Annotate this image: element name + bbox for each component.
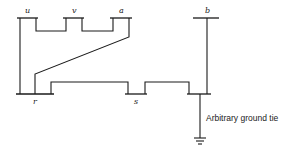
label-b: b [205,6,210,15]
ground-icon [194,138,206,144]
edge-r-s [51,82,128,94]
label-s: s [134,97,138,106]
edge-v-a [82,18,113,31]
edge-u-v [36,18,66,31]
label-v: v [72,6,77,15]
label-r: r [33,97,38,106]
ground-tie-annotation: Arbitrary ground tie [206,113,279,123]
label-a: a [119,6,124,15]
label-u: u [25,6,30,15]
network-diagram: u v a b r s Arbitrary ground tie [0,0,304,149]
edge-s-ground [145,82,189,94]
